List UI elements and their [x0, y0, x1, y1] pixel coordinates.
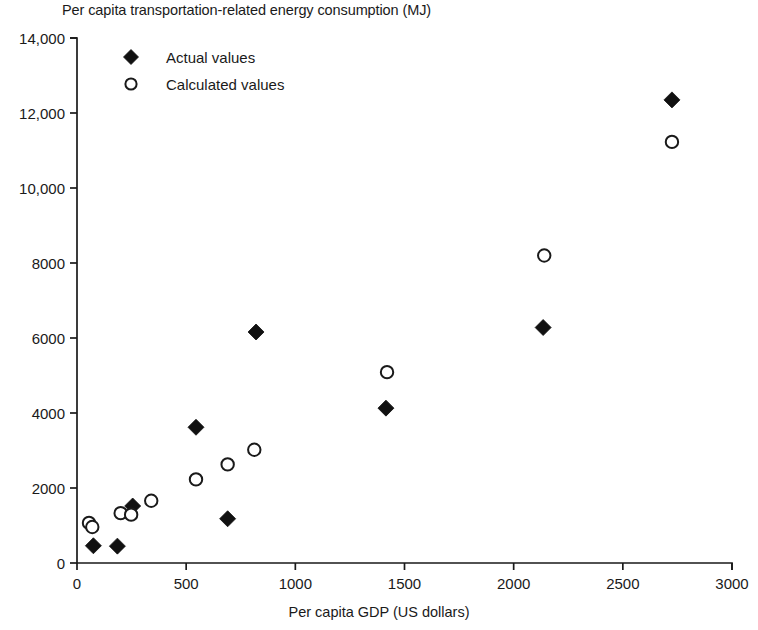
- legend-label-actual-values: Actual values: [166, 49, 255, 66]
- data-point-actual-values: [535, 320, 551, 336]
- data-point-calculated-values: [381, 366, 393, 378]
- x-axis-tick-label: 0: [73, 575, 81, 592]
- data-point-calculated-values: [86, 521, 98, 533]
- legend-marker-actual: [124, 50, 139, 65]
- axis-spines: [77, 38, 732, 563]
- data-point-calculated-values: [666, 136, 678, 148]
- x-axis-tick-label: 500: [174, 575, 199, 592]
- x-axis-title: Per capita GDP (US dollars): [0, 604, 758, 620]
- data-point-calculated-values: [248, 444, 260, 456]
- data-point-calculated-values: [190, 473, 202, 485]
- y-axis-tick-label: 10,000: [19, 180, 65, 197]
- data-point-calculated-values: [538, 249, 550, 261]
- data-point-calculated-values: [125, 508, 137, 520]
- x-axis-tick-label: 1000: [279, 575, 312, 592]
- x-axis-tick-label: 1500: [388, 575, 421, 592]
- legend-label-calculated-values: Calculated values: [166, 76, 284, 93]
- y-axis-tick-label: 8000: [32, 255, 65, 272]
- x-axis-tick-label: 2000: [497, 575, 530, 592]
- data-point-actual-values: [85, 538, 101, 554]
- data-point-actual-values: [664, 92, 680, 108]
- scatter-plot-canvas: 0200040006000800010,00012,00014,00005001…: [0, 0, 758, 630]
- data-point-actual-values: [378, 400, 394, 416]
- y-axis-tick-label: 12,000: [19, 105, 65, 122]
- data-point-actual-values: [248, 324, 264, 340]
- y-axis-tick-label: 4000: [32, 405, 65, 422]
- y-axis-tick-label: 0: [57, 555, 65, 572]
- y-axis-tick-label: 14,000: [19, 30, 65, 47]
- y-axis-tick-label: 6000: [32, 330, 65, 347]
- data-point-calculated-values: [221, 458, 233, 470]
- x-axis-tick-label: 2500: [606, 575, 639, 592]
- data-point-actual-values: [220, 511, 236, 527]
- data-point-calculated-values: [145, 495, 157, 507]
- chart-figure: Per capita transportation-related energy…: [0, 0, 758, 630]
- data-point-actual-values: [188, 419, 204, 435]
- legend-marker-calculated: [125, 78, 136, 89]
- data-point-actual-values: [109, 538, 125, 554]
- y-axis-tick-label: 2000: [32, 480, 65, 497]
- x-axis-tick-label: 3000: [715, 575, 748, 592]
